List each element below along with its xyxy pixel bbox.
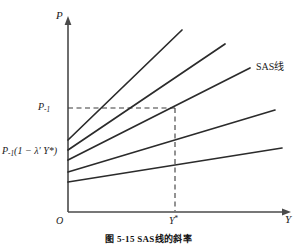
sas-line-shallow (68, 110, 275, 172)
y-tick-label-p-minus-1: P-1 (38, 102, 50, 114)
origin-label: O (56, 216, 63, 226)
y-tick-subscript: -1 (44, 106, 50, 114)
figure-container: P Y O P-1 Y* P-1(1 − λ′ Y*) SAS线 图 5-15 … (0, 0, 297, 244)
sas-curve-annotation: SAS线 (256, 62, 284, 72)
sas-line-steep (68, 44, 225, 150)
x-tick-label-y-star: Y* (169, 216, 178, 226)
x-tick-superscript: * (175, 215, 179, 223)
x-axis-label: Y (285, 214, 291, 225)
intercept-expression-label: P-1(1 − λ′ Y*) (2, 146, 57, 158)
sas-curve-chart (0, 0, 297, 244)
y-axis-arrowhead (65, 16, 72, 25)
intercept-expression: (1 − λ′ Y*) (14, 145, 57, 156)
figure-caption: 图 5-15 SAS线的斜率 (0, 232, 297, 244)
y-axis-label: P (56, 10, 63, 21)
